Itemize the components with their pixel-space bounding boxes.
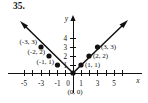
y-axis-label: y [64,14,69,23]
y-tick-label: 3 [63,44,67,52]
y-tick-label: 2 [63,53,67,61]
data-point [78,62,83,67]
x-tick-label: -5 [21,80,27,88]
figure-container: 35. [0,0,148,103]
data-point [70,70,75,75]
point-label: (3, 3) [101,43,117,51]
coordinate-plane-svg: -5 -3 -1 0 1 3 5 1 2 3 4 y x (-3, 3) (-2… [0,11,148,103]
y-tick-label: 4 [63,35,67,43]
data-point [95,44,100,49]
point-label: (1, 1) [85,61,101,69]
x-axis-label: x [135,76,140,85]
x-tick-label: 0 [66,80,70,88]
data-point [55,62,60,67]
x-tick-label: -3 [38,80,44,88]
point-label: (-2, 2) [28,48,46,56]
point-label: (-1, 1) [37,58,55,66]
x-tick-label: 1 [79,80,83,88]
point-label: (2, 2) [93,52,109,60]
x-tick-label: -1 [55,80,61,88]
y-axis-arrow-icon [70,15,75,21]
data-point [86,53,91,58]
graph-figure: -5 -3 -1 0 1 3 5 1 2 3 4 y x (-3, 3) (-2… [0,11,148,103]
point-label: (-3, 3) [20,38,38,46]
point-label: (0, 0) [67,88,83,96]
x-tick-label: 5 [112,80,116,88]
y-tick-label: 1 [63,62,67,70]
x-tick-label: 3 [96,80,100,88]
